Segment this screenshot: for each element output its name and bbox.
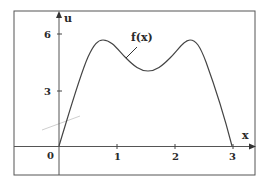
x-axis-label: x	[242, 129, 249, 142]
y-tick-label-6: 6	[44, 29, 51, 40]
origin-label: 0	[47, 150, 54, 161]
y-tick-label-3: 3	[44, 86, 51, 97]
curve-label: f(x)	[131, 31, 153, 44]
curve-f	[59, 40, 232, 146]
x-tick-label-3: 3	[229, 151, 236, 162]
y-axis-label: u	[64, 12, 72, 25]
x-tick-label-1: 1	[114, 151, 121, 162]
y-axis-arrow-icon	[56, 11, 62, 18]
artifact-line	[42, 116, 80, 130]
curve-label-pointer	[126, 47, 137, 58]
function-plot: 0 1 2 3 3 6 u x f(x)	[0, 0, 268, 187]
x-tick-label-2: 2	[172, 151, 179, 162]
